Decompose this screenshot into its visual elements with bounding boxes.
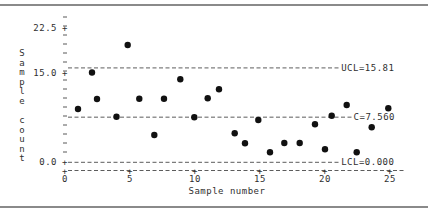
data-point bbox=[161, 96, 167, 102]
data-points bbox=[75, 42, 392, 156]
data-point bbox=[89, 69, 95, 75]
svg-text:15.0: 15.0 bbox=[33, 68, 57, 78]
x-axis-label: Sample number bbox=[189, 186, 266, 196]
svg-text:25: 25 bbox=[384, 174, 396, 184]
y-axis-label: Samplecount bbox=[19, 48, 24, 163]
data-point bbox=[369, 124, 375, 130]
data-point bbox=[322, 146, 328, 152]
data-point bbox=[385, 105, 391, 111]
data-point bbox=[232, 130, 238, 136]
svg-text:UCL=15.81: UCL=15.81 bbox=[341, 63, 394, 73]
data-point bbox=[136, 96, 142, 102]
x-axis: +0+5+10+15+20+25 bbox=[62, 166, 405, 185]
data-point bbox=[312, 121, 318, 127]
svg-text:a: a bbox=[19, 58, 24, 68]
data-point bbox=[329, 113, 335, 119]
data-point bbox=[267, 149, 273, 155]
svg-text:p: p bbox=[19, 77, 24, 87]
svg-text:C=7.560: C=7.560 bbox=[354, 112, 395, 122]
data-point bbox=[151, 132, 157, 138]
data-point bbox=[205, 95, 211, 101]
data-point bbox=[281, 140, 287, 146]
svg-text:22.5: 22.5 bbox=[33, 23, 57, 33]
svg-text:20: 20 bbox=[319, 174, 331, 184]
data-point bbox=[297, 140, 303, 146]
svg-text:l: l bbox=[19, 86, 24, 96]
svg-text:10: 10 bbox=[189, 174, 201, 184]
svg-text:m: m bbox=[19, 67, 24, 77]
svg-text:+: + bbox=[62, 23, 68, 33]
svg-text:n: n bbox=[19, 144, 24, 154]
data-point bbox=[75, 106, 81, 112]
data-point bbox=[113, 114, 119, 120]
svg-text:e: e bbox=[19, 96, 24, 106]
control-chart: Samplecount 0.0+15.0+22.5+ UCL=15.81C=7.… bbox=[0, 0, 428, 212]
data-point bbox=[191, 114, 197, 120]
data-point bbox=[242, 140, 248, 146]
svg-text:t: t bbox=[19, 153, 24, 163]
svg-text:15: 15 bbox=[254, 174, 266, 184]
data-point bbox=[125, 42, 131, 48]
data-point bbox=[94, 96, 100, 102]
data-point bbox=[255, 117, 261, 123]
data-point bbox=[354, 149, 360, 155]
data-point bbox=[177, 76, 183, 82]
svg-text:0.0: 0.0 bbox=[39, 157, 57, 167]
data-point bbox=[216, 86, 222, 92]
svg-text:0: 0 bbox=[62, 174, 68, 184]
svg-text:S: S bbox=[19, 48, 24, 58]
data-point bbox=[344, 102, 350, 108]
svg-text:c: c bbox=[19, 115, 24, 125]
y-axis: 0.0+15.0+22.5+ bbox=[33, 17, 68, 167]
svg-text:+: + bbox=[62, 68, 68, 78]
svg-text:u: u bbox=[19, 134, 24, 144]
svg-text:5: 5 bbox=[127, 174, 133, 184]
svg-text:o: o bbox=[19, 125, 24, 135]
